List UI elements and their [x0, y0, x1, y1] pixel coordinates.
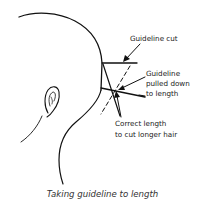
label-guideline-pulled-3: to length [146, 90, 178, 98]
arrowhead-guideline-pulled [118, 85, 125, 90]
label-correct-length-2: to cut longer hair [115, 131, 177, 139]
arrow-guideline-pulled [122, 77, 145, 88]
arrow-guideline-cut [126, 44, 140, 59]
label-guideline-cut: Guideline cut [130, 35, 178, 43]
figure-caption: Taking guideline to length [0, 189, 205, 199]
dashed-guide-line [101, 66, 130, 114]
hair-guideline-diagram: Guideline cut Guideline pulled down to l… [0, 0, 205, 209]
ear-inner-fold [51, 97, 52, 104]
head-illustration [0, 0, 205, 209]
jaw-line [21, 116, 42, 142]
hair-strand-line [103, 64, 120, 116]
label-guideline-pulled-1: Guideline [146, 70, 180, 78]
neck-back-line [59, 90, 101, 184]
label-correct-length-1: Correct length [115, 120, 166, 128]
head-outline [19, 13, 102, 90]
label-guideline-pulled-2: pulled down [146, 80, 190, 88]
